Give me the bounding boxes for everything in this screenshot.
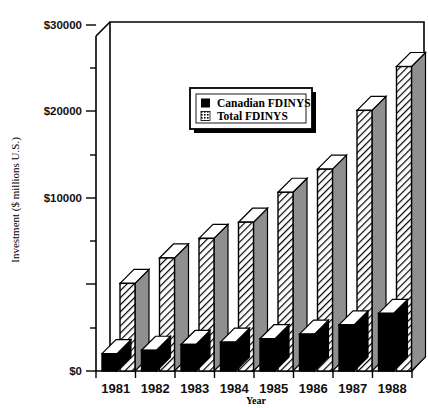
legend-label-total: Total FDINYS: [217, 110, 288, 122]
bar-canadian-1984-front-face: [221, 342, 236, 371]
x-label-1987: 1987: [338, 381, 367, 396]
x-label-1985: 1985: [259, 381, 288, 396]
y-tick-label-20000: $20000: [44, 105, 82, 117]
bar-canadian-1987-front-face: [339, 325, 354, 371]
x-label-1981: 1981: [101, 381, 130, 396]
bar-total-1988-side-face: [412, 53, 426, 371]
y-tick-label-0: $0: [69, 365, 82, 377]
chart-container: $0 $10000 $20000 $30000 Investment ($ mi…: [0, 0, 428, 408]
x-label-1986: 1986: [299, 381, 328, 396]
y-axis-title: Investment ($ millions U.S.): [9, 137, 22, 263]
bar-canadian-1983-front-face: [181, 344, 196, 371]
bar-canadian-1985-front-face: [260, 339, 275, 371]
bar-canadian-1988: [379, 299, 408, 371]
bar-canadian-1982-front-face: [142, 350, 157, 371]
y-tick-label-10000: $10000: [44, 192, 82, 204]
bar-canadian-1986-front-face: [300, 334, 315, 371]
legend-label-canadian: Canadian FDINYS: [217, 97, 311, 109]
legend: Canadian FDINYS Total FDINYS: [190, 88, 316, 133]
x-axis-title: Year: [246, 395, 267, 406]
bar-chart: $0 $10000 $20000 $30000 Investment ($ mi…: [0, 0, 428, 408]
y-tick-label-30000: $30000: [44, 19, 82, 31]
x-label-1984: 1984: [220, 381, 250, 396]
x-label-1982: 1982: [141, 381, 170, 396]
legend-swatch-total: [201, 112, 210, 121]
bar-canadian-1988-front-face: [379, 313, 394, 371]
bar-canadian-1987: [339, 311, 368, 371]
x-label-1983: 1983: [180, 381, 209, 396]
legend-swatch-canadian: [201, 99, 210, 108]
x-label-1988: 1988: [378, 381, 407, 396]
bar-canadian-1981-front-face: [102, 354, 117, 371]
